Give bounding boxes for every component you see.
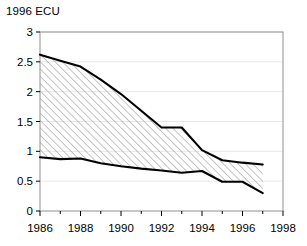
hatched-band [40,55,263,193]
svg-text:1992: 1992 [149,222,175,234]
y-axis-tick-labels: 00.511.522.53 [17,26,33,217]
y-axis-ticks [36,32,40,211]
chart-plot-svg: 00.511.522.53 19861988199019921994199619… [0,0,307,246]
svg-text:1994: 1994 [189,222,215,234]
svg-text:1.5: 1.5 [17,116,33,128]
svg-text:2: 2 [27,86,33,98]
chart-container: 1996 ECU 00.511.522.53 19861988199019921… [0,0,307,246]
svg-text:1: 1 [27,145,33,157]
svg-text:0: 0 [27,205,33,217]
svg-text:3: 3 [27,26,33,38]
svg-text:1988: 1988 [68,222,94,234]
svg-text:1990: 1990 [108,222,134,234]
svg-text:1996: 1996 [230,222,256,234]
band-fill-group [40,55,263,193]
x-axis-ticks [40,211,283,216]
svg-text:1998: 1998 [270,222,296,234]
svg-text:1986: 1986 [27,222,53,234]
x-axis-tick-labels: 1986198819901992199419961998 [27,222,296,234]
svg-text:0.5: 0.5 [17,175,33,187]
svg-text:2.5: 2.5 [17,56,33,68]
